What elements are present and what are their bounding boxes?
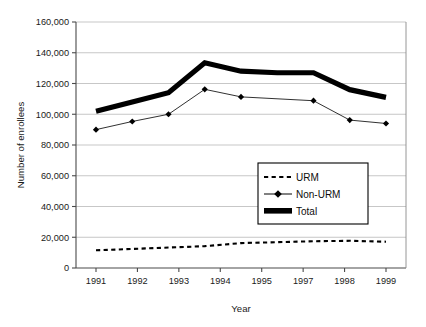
data-point-marker — [202, 86, 208, 92]
y-axis-title-text: Number of enrollees — [15, 102, 26, 189]
data-point-marker — [165, 111, 171, 117]
thick-bar-icon — [264, 208, 292, 214]
non-urm-markers — [93, 86, 389, 132]
x-tick-label: 1995 — [251, 276, 271, 286]
x-tick-label: 1997 — [293, 276, 313, 286]
data-point-marker — [310, 98, 316, 104]
data-point-marker — [383, 120, 389, 126]
x-tick-label: 1992 — [127, 276, 147, 286]
y-tick-label: 120,000 — [36, 79, 69, 89]
legend-label-total: Total — [296, 206, 317, 217]
y-tick-label: 20,000 — [41, 233, 69, 243]
x-axis-title: Year — [231, 303, 251, 314]
enrollment-line-chart: 020,00040,00060,00080,000100,000120,0001… — [0, 0, 426, 327]
y-tick-label: 60,000 — [41, 171, 69, 181]
data-point-marker — [93, 127, 99, 133]
series-non-urm — [93, 86, 389, 132]
data-point-marker — [238, 94, 244, 100]
y-tick-label: 40,000 — [41, 202, 69, 212]
x-tick-marks — [96, 268, 386, 272]
chart-svg: 020,00040,00060,00080,000100,000120,0001… — [0, 0, 426, 327]
y-tick-label: 140,000 — [36, 48, 69, 58]
legend: URM Non-URM Total — [258, 163, 368, 224]
legend-label-non-urm: Non-URM — [296, 189, 340, 200]
series-urm — [96, 241, 386, 251]
x-tick-label: 1994 — [210, 276, 230, 286]
data-point-marker — [129, 118, 135, 124]
series-total — [96, 63, 386, 111]
x-tick-label: 1991 — [86, 276, 106, 286]
x-tick-label: 1998 — [334, 276, 354, 286]
y-tick-label: 100,000 — [36, 110, 69, 120]
data-point-marker — [347, 117, 353, 123]
y-tick-label: 80,000 — [41, 140, 69, 150]
y-tick-labels: 020,00040,00060,00080,000100,000120,0001… — [36, 17, 69, 273]
x-tick-labels: 19911992199319941995199719981999 — [86, 276, 396, 286]
x-tick-label: 1993 — [169, 276, 189, 286]
y-tick-label: 160,000 — [36, 17, 69, 27]
y-axis-title: Number of enrollees — [15, 102, 26, 189]
legend-label-urm: URM — [296, 172, 319, 183]
y-tick-label: 0 — [64, 263, 69, 273]
x-axis-title-text: Year — [231, 303, 251, 314]
x-tick-label: 1999 — [376, 276, 396, 286]
y-tick-marks — [72, 22, 76, 268]
